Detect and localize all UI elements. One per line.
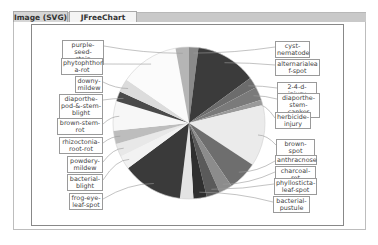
pie-label-phytophthora-rot: phytophthor a-rot xyxy=(61,58,103,75)
pie-label-brown-spot: brown-spot xyxy=(276,139,315,156)
pie-label-alternarialeaf-spot: alternarialea f-spot xyxy=(275,59,320,76)
pie-label-anthracnose: anthracnose xyxy=(275,155,317,165)
pie-label-cyst-nematode: cyst- nematode xyxy=(275,41,310,58)
pie-label-bacterial-blight: bacterial- blight xyxy=(67,174,103,191)
pie-label-diaporthe-pod-stem-blight: diaporthe- pod-&-stem- blight xyxy=(59,94,103,119)
pie-label-bacterial-pustule: bacterial- pustule xyxy=(273,196,310,213)
pie-label-frog-eye-leaf-spot: frog-eye- leaf-spot xyxy=(69,193,103,210)
pie-label-herbicide-injury: herbicide- injury xyxy=(275,112,311,129)
pie-label-brown-stem-rot: brown-stem- rot xyxy=(57,118,103,135)
pie-label-phyllosticta-leaf-spot: phyllosticta- leaf-spot xyxy=(274,178,317,195)
pie-label-powdery-mildew: powdery- mildew xyxy=(67,156,103,173)
pie-label-downy-mildew: downy- mildew xyxy=(75,76,103,93)
pie-label-rhizoctonia-root-rot: rhizoctonia- root-rot xyxy=(59,137,103,154)
